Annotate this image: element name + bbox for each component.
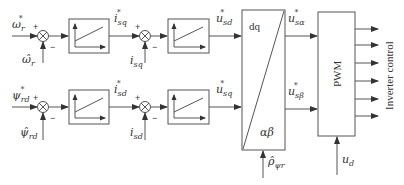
- minus-sign: −: [152, 113, 157, 123]
- minus-sign: −: [50, 42, 55, 52]
- top-row: ωr* + − ω̂r isq* + − isq: [12, 8, 241, 69]
- pwm-block: PWM: [318, 12, 355, 136]
- omega-ref-label: ωr*: [12, 14, 26, 33]
- plus-sign: +: [33, 22, 38, 32]
- isd-ref-label: isd*: [114, 79, 127, 98]
- rho-angle-label: ρ̂ψr: [267, 155, 286, 170]
- flux-controller-block: [69, 90, 109, 124]
- speed-controller-block: [69, 19, 109, 53]
- dq-label: dq: [249, 20, 261, 32]
- control-block-diagram: ωr* + − ω̂r isq* + − isq: [0, 0, 404, 185]
- plus-sign: +: [135, 93, 140, 103]
- omega-feedback-label: ω̂r: [22, 53, 36, 68]
- minus-sign: −: [152, 42, 157, 52]
- isq-controller-block: [168, 19, 209, 53]
- plus-sign: +: [135, 22, 140, 32]
- minus-sign: −: [50, 113, 55, 123]
- bottom-row: ψrd* + − ψ̂rd isd* + − isd: [12, 79, 241, 141]
- psi-feedback-label: ψ̂rd: [20, 126, 38, 141]
- summer-speed: [38, 31, 49, 42]
- dq-to-alphabeta-block: dq αβ: [242, 10, 285, 150]
- alphabeta-label: αβ: [260, 126, 274, 139]
- psi-ref-label: ψrd*: [12, 85, 30, 104]
- isd-controller-block: [168, 90, 209, 124]
- summer-isq: [140, 31, 151, 42]
- pwm-outputs: [355, 29, 378, 116]
- isq-ref-label: isq*: [114, 8, 127, 27]
- u-beta-label: usβ*: [288, 81, 304, 100]
- isd-feedback-label: isd: [130, 126, 143, 141]
- usd-ref-label: usd*: [216, 8, 232, 27]
- ud-label: ud: [342, 153, 354, 168]
- summer-isd: [140, 102, 151, 113]
- u-alpha-label: usα*: [288, 8, 305, 27]
- summer-flux: [38, 102, 49, 113]
- usq-ref-label: usq*: [216, 79, 232, 98]
- isq-feedback-label: isq: [130, 54, 143, 69]
- inverter-control-label: Inverter control: [383, 41, 395, 110]
- pwm-label: PWM: [331, 61, 343, 88]
- plus-sign: +: [33, 93, 38, 103]
